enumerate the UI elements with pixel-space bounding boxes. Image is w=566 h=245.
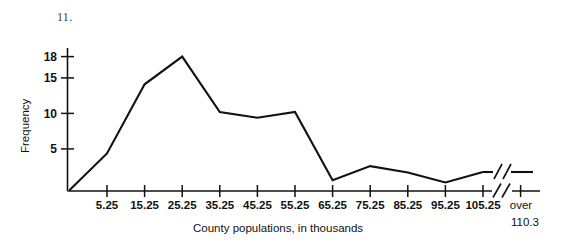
y-tick-label-10: 10 [44, 107, 58, 121]
x-tick-label-105-25: 105.25 [465, 199, 501, 211]
x-tick-label-15-25: 15.25 [130, 199, 159, 211]
x-axis-break-icon [492, 184, 512, 198]
y-tick-label-5: 5 [50, 142, 57, 156]
x-axis-title: County populations, in thousands [193, 222, 363, 234]
x-tick-label-35-25: 35.25 [205, 199, 234, 211]
x-tick-label-65-25: 65.25 [318, 199, 347, 211]
figure-container: 11. 18 15 10 5 Frequency [0, 0, 566, 245]
series-break-icon [493, 163, 513, 179]
x-tick-label-over-line2: 110.3 [511, 216, 539, 228]
frequency-polygon-line [69, 57, 483, 191]
x-tick-label-95-25: 95.25 [431, 199, 460, 211]
x-tick-label-25-25: 25.25 [168, 199, 197, 211]
x-tick-label-5-25: 5.25 [96, 199, 119, 211]
frequency-polygon-chart: 18 15 10 5 Frequency 5.25 1 [0, 0, 566, 245]
y-tick-label-18: 18 [44, 50, 58, 64]
x-tick-label-over-line1: over [510, 199, 533, 211]
x-tick-label-55-25: 55.25 [281, 199, 310, 211]
y-tick-label-15: 15 [44, 71, 58, 85]
y-axis-title: Frequency [19, 98, 31, 153]
x-tick-label-75-25: 75.25 [356, 199, 385, 211]
x-tick-label-45-25: 45.25 [243, 199, 272, 211]
x-tick-label-85-25: 85.25 [393, 199, 422, 211]
